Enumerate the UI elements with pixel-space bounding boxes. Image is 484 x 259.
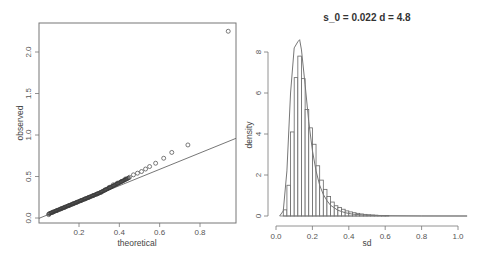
histogram-y-tick-label: 4 [254, 131, 263, 136]
qq-y-tick-label: 0.5 [24, 170, 33, 182]
qq-x-tick-label: 0.6 [154, 228, 166, 237]
qq-points [47, 29, 230, 216]
histogram-bar [305, 109, 309, 216]
histogram-y-tick-label: 0 [254, 213, 263, 218]
qq-point [226, 29, 230, 33]
qq-point [148, 165, 152, 169]
histogram-bar [334, 206, 338, 216]
histogram-y-tick-label: 2 [254, 172, 263, 177]
histogram-bar [291, 132, 295, 216]
histogram-x-label: sd [363, 238, 372, 248]
qq-y-axis: 0.00.51.01.52.0 [24, 46, 39, 224]
qq-point [154, 161, 158, 165]
histogram-x-tick-label: 0.4 [343, 232, 355, 241]
qq-point [170, 150, 174, 154]
qq-point [144, 167, 148, 171]
histogram-bar [294, 78, 298, 216]
qq-x-label: theoretical [117, 238, 156, 248]
qq-x-tick-label: 0.2 [73, 228, 85, 237]
histogram-y-axis: 02468 [254, 49, 268, 218]
histogram-bar [323, 189, 327, 216]
qq-y-tick-label: 2.0 [24, 46, 33, 58]
histogram-bar [331, 202, 335, 216]
histogram-x-tick-label: 0.8 [416, 232, 428, 241]
qq-x-tick-label: 0.8 [194, 228, 206, 237]
histogram-bar [283, 210, 287, 216]
qq-point [135, 171, 139, 175]
qq-y-tick-label: 1.0 [24, 129, 33, 141]
histogram-x-tick-label: 0.0 [270, 232, 282, 241]
qq-y-tick-label: 0.0 [24, 212, 33, 224]
qq-point [186, 143, 190, 147]
histogram-bar [327, 197, 331, 216]
histogram-y-label: density [244, 121, 254, 149]
histogram-bars [283, 56, 389, 216]
qq-point [140, 170, 144, 174]
histogram-y-tick-label: 8 [254, 49, 263, 54]
histogram-bar [309, 128, 313, 216]
qq-point [131, 173, 135, 177]
histogram-bar [301, 79, 305, 216]
figure: 0.00.51.01.52.0 0.20.40.60.8 theoretical… [0, 0, 484, 259]
qq-point [162, 156, 166, 160]
histogram-bar [287, 185, 291, 216]
qq-plot: 0.00.51.01.52.0 0.20.40.60.8 theoretical… [15, 23, 236, 248]
qq-plot-frame [39, 23, 236, 223]
histogram-x-tick-label: 1.0 [452, 232, 464, 241]
histogram-y-tick-label: 6 [254, 90, 263, 95]
histogram-x-tick-label: 0.6 [380, 232, 392, 241]
histogram-plot: s_0 = 0.022 d = 4.8 02468 0.00.20.40.60.… [244, 12, 467, 248]
qq-x-tick-label: 0.4 [114, 228, 126, 237]
qq-x-axis: 0.20.40.60.8 [73, 223, 206, 237]
histogram-x-tick-label: 0.2 [307, 232, 319, 241]
histogram-title: s_0 = 0.022 d = 4.8 [323, 12, 411, 23]
histogram-bar [298, 56, 302, 216]
qq-y-tick-label: 1.5 [24, 87, 33, 99]
qq-y-label: observed [15, 105, 25, 140]
